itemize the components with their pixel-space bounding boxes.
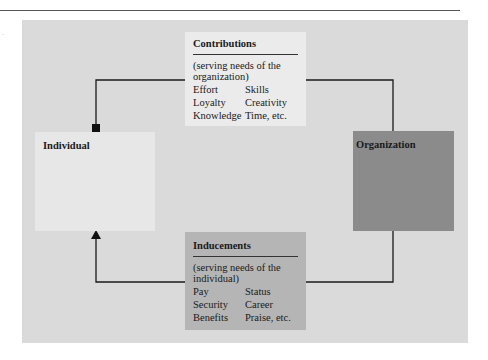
list-item: Benefits — [193, 311, 245, 324]
list-item: Knowledge — [193, 109, 245, 122]
connector-contributions-to-individual — [96, 80, 185, 126]
connector-organization-to-inducements — [306, 231, 393, 282]
list-item: Creativity — [245, 96, 298, 109]
inducements-divider — [193, 256, 298, 257]
individual-box: Individual — [35, 132, 155, 231]
inducements-items: Pay Status Security Career Benefits Prai… — [193, 285, 298, 324]
contributions-items: Effort Skills Loyalty Creativity Knowled… — [193, 83, 298, 122]
contributions-box: Contributions (serving needs of the orga… — [185, 32, 306, 126]
organization-box: Organization — [353, 131, 454, 231]
list-item: Praise, etc. — [245, 311, 298, 324]
arrowhead-icon — [91, 230, 101, 239]
contributions-title: Contributions — [193, 38, 298, 49]
organization-label: Organization — [356, 139, 451, 150]
contributions-description: (serving needs of the organization) — [193, 60, 298, 82]
contributions-divider — [193, 54, 298, 55]
list-item: Status — [245, 285, 298, 298]
list-item: Career — [245, 298, 298, 311]
connector-inducements-to-individual — [96, 238, 185, 282]
individual-label: Individual — [43, 140, 147, 151]
connector-contributions-to-organization — [306, 80, 393, 131]
list-item: Security — [193, 298, 245, 311]
list-item: Effort — [193, 83, 245, 96]
list-item: Time, etc. — [245, 109, 298, 122]
list-item: Loyalty — [193, 96, 245, 109]
inducements-box: Inducements (serving needs of the indivi… — [185, 232, 306, 330]
list-item: Skills — [245, 83, 298, 96]
square-endpoint-icon — [92, 124, 100, 132]
list-item: Pay — [193, 285, 245, 298]
inducements-description: (serving needs of the individual) — [193, 262, 298, 284]
inducements-title: Inducements — [193, 240, 298, 251]
